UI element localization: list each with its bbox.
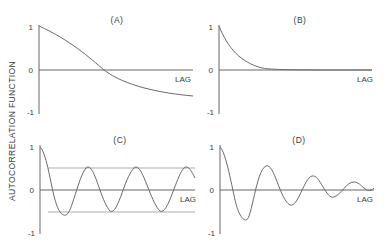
panel-b-curve <box>219 26 372 70</box>
y-axis-label: AUTOCORRELATION FUNCTION <box>7 61 17 201</box>
panel-a-ytick-1: 1 <box>29 23 34 32</box>
panel-b-title: (B) <box>294 15 307 25</box>
panel-d-x-label: LAG <box>357 195 373 204</box>
panel-b-ytick-neg1: -1 <box>207 108 215 117</box>
panel-c-ytick-neg1: -1 <box>28 229 36 238</box>
panel-c-curve <box>40 147 195 215</box>
panel-b-ytick-0: 0 <box>209 66 214 75</box>
panel-d: (D) 1 0 -1 LAG <box>208 135 374 238</box>
panel-a-title: (A) <box>111 15 124 25</box>
panel-d-ytick-0: 0 <box>210 186 215 195</box>
panel-a-ytick-neg1: -1 <box>27 108 35 117</box>
panel-d-ytick-neg1: -1 <box>208 229 216 238</box>
panel-a-curve <box>39 26 193 96</box>
panel-c: (C) 1 0 -1 LAG <box>28 135 196 238</box>
panel-b: (B) 1 0 -1 LAG <box>207 15 373 117</box>
panel-d-ytick-1: 1 <box>210 143 215 152</box>
panel-c-title: (C) <box>113 135 126 145</box>
autocorrelation-figure: AUTOCORRELATION FUNCTION (A) 1 0 -1 LAG … <box>0 0 384 241</box>
panel-b-ytick-1: 1 <box>209 23 214 32</box>
panel-a-ytick-0: 0 <box>29 66 34 75</box>
panel-b-x-label: LAG <box>357 75 373 84</box>
panel-c-ytick-0: 0 <box>30 186 35 195</box>
panel-c-x-label: LAG <box>180 195 196 204</box>
panel-d-curve <box>220 147 374 220</box>
panel-a-x-label: LAG <box>175 75 191 84</box>
panel-a: (A) 1 0 -1 LAG <box>27 15 193 117</box>
panel-c-ytick-1: 1 <box>30 143 35 152</box>
panel-d-title: (D) <box>292 135 305 145</box>
